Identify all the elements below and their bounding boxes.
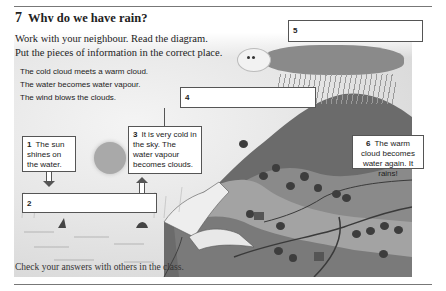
answer-box-1[interactable]: 1The sun shines on the water.: [22, 136, 76, 172]
tree: [394, 226, 403, 234]
box-text: The sun shines on the water.: [27, 140, 64, 169]
arrow-down-head: [43, 181, 55, 187]
answer-box-4[interactable]: 4: [180, 87, 316, 108]
small-cloud-character: [237, 48, 271, 72]
tree: [272, 164, 280, 172]
top-rule: [14, 6, 432, 7]
answer-box-2[interactable]: 2: [22, 193, 157, 213]
instruction-line-1: Work with your neighbour. Read the diagr…: [15, 33, 208, 44]
cloud-eyes: [247, 56, 250, 59]
piece-list: The cold cloud meets a warm cloud. The w…: [20, 65, 148, 104]
arrow-up: [139, 183, 145, 193]
tree: [289, 254, 297, 262]
tree: [332, 190, 341, 198]
tree: [286, 182, 295, 190]
answer-box-3[interactable]: 3It is very cold in the sky. The water v…: [128, 126, 202, 174]
footer-instruction: Check your answers with others in the cl…: [15, 262, 184, 272]
tree: [300, 172, 309, 181]
connector-line: [164, 108, 165, 126]
tree: [380, 222, 389, 230]
box-text: It is very cold in the sky. The water va…: [133, 130, 197, 169]
tree: [259, 172, 268, 180]
box-number: 3: [133, 130, 137, 139]
tree: [246, 210, 254, 218]
box-number: 5: [293, 26, 297, 35]
piece-2[interactable]: The water becomes water vapour.: [20, 78, 148, 91]
tree: [239, 140, 248, 148]
tree: [379, 250, 388, 258]
box-number: 1: [27, 140, 31, 149]
sun: [94, 142, 126, 174]
piece-1[interactable]: The cold cloud meets a warm cloud.: [20, 65, 148, 78]
box-number: 4: [185, 93, 189, 102]
tree: [342, 194, 351, 202]
answer-box-5[interactable]: 5: [288, 20, 423, 42]
bottom-rule: [14, 284, 432, 285]
tree: [366, 227, 375, 235]
tree: [274, 247, 283, 255]
tree: [276, 222, 285, 230]
piece-3[interactable]: The wind blows the clouds.: [20, 91, 148, 104]
instruction-line-2: Put the pieces of information in the cor…: [15, 47, 222, 58]
answer-box-6[interactable]: 6The warm cloud becomes water again. It …: [352, 135, 424, 169]
tree: [314, 184, 322, 192]
rain-cloud: [264, 45, 404, 75]
box-number: 6: [366, 139, 370, 148]
box-number: 2: [27, 199, 31, 208]
tree: [352, 230, 361, 238]
